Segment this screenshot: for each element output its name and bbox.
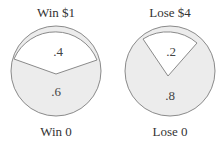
left-slice-bottom-value: .6 (51, 84, 61, 99)
spinner-charts: .4 .6 .2 .8 (0, 0, 223, 146)
right-spinner: .2 .8 (125, 26, 215, 116)
left-spinner: .4 .6 (11, 26, 101, 116)
left-slice-top-value: .4 (53, 44, 63, 59)
right-slice-bottom-value: .8 (165, 88, 175, 103)
right-slice-top-value: .2 (166, 44, 176, 59)
